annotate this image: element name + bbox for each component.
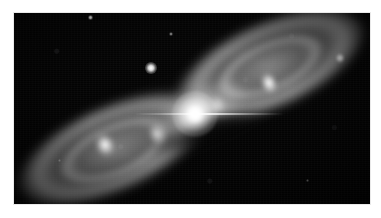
image-canvas: [0, 0, 381, 218]
photo-frame: [14, 13, 370, 204]
central-star: [172, 91, 218, 137]
